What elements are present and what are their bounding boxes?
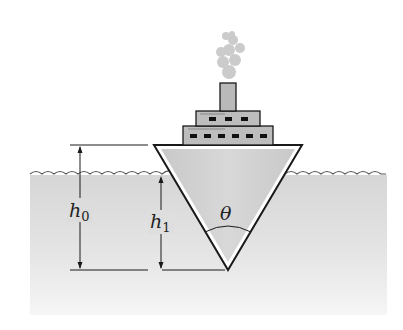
smokestack — [220, 83, 236, 111]
superstructure-lower — [183, 126, 273, 145]
ship-hull-diagram: h0 h1 θ — [0, 0, 403, 330]
smoke-cloud — [216, 31, 245, 79]
superstructure-upper — [196, 111, 260, 126]
window-row-upper — [209, 117, 248, 121]
theta-label: θ — [220, 202, 232, 224]
